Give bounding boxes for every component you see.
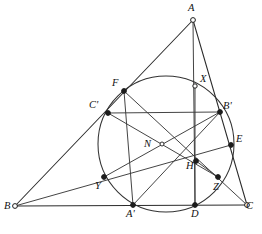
point-label-n: N — [144, 139, 151, 150]
point-marker-h — [194, 159, 199, 164]
point-label-y: Y — [95, 181, 101, 192]
point-marker-c-prime — [106, 111, 111, 116]
nine-point-circle-figure: ABCA'B'C'DEFXYZHN — [0, 0, 262, 234]
point-marker-a-prime — [131, 203, 136, 208]
point-label-c-prime: C' — [89, 100, 98, 111]
segment-layer — [15, 20, 247, 206]
point-marker-d — [193, 203, 198, 208]
point-label-h: H — [186, 161, 194, 172]
point-label-a-prime: A' — [126, 209, 135, 220]
geometry-canvas — [0, 0, 262, 234]
point-marker-z — [216, 175, 221, 180]
point-label-c: C — [246, 201, 253, 212]
chord-Ap-Bp — [133, 112, 220, 205]
point-marker-x — [193, 84, 197, 88]
point-marker-f — [122, 89, 127, 94]
point-marker-n — [160, 142, 164, 146]
chord-H-Z — [196, 161, 218, 177]
point-marker-e — [229, 143, 234, 148]
point-label-z: Z — [213, 182, 219, 193]
point-marker-a — [191, 18, 196, 23]
point-label-b: B — [4, 201, 10, 212]
point-label-d: D — [191, 209, 199, 220]
point-marker-b-prime — [218, 110, 223, 115]
point-label-a: A — [188, 3, 194, 14]
point-label-b-prime: B' — [223, 101, 232, 112]
midline-Cp-Bp — [108, 112, 220, 113]
point-label-e: E — [236, 134, 242, 145]
chord-F-Ap — [124, 91, 133, 205]
point-label-x: X — [200, 74, 206, 85]
point-label-f: F — [112, 78, 118, 89]
point-marker-y — [102, 175, 107, 180]
point-marker-b — [13, 204, 18, 209]
